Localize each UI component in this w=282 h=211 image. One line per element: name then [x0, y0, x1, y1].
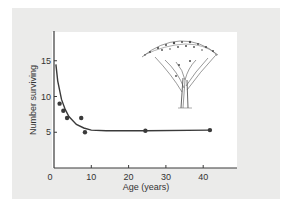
y-axis-label: Number surviving [28, 65, 38, 135]
data-point [143, 129, 147, 133]
x-tick-label: 0 [47, 172, 52, 182]
tree-illustration [142, 41, 218, 108]
x-tick-label: 10 [86, 172, 96, 182]
survivorship-chart: 010203040 51015 Age (years) Number survi… [0, 0, 282, 211]
data-point [83, 130, 87, 134]
x-tick-label: 30 [161, 172, 171, 182]
y-tick-label: 15 [41, 56, 51, 66]
data-point [57, 101, 61, 105]
data-point [208, 128, 212, 132]
x-tick-label: 20 [124, 172, 134, 182]
x-tick-label: 40 [198, 172, 208, 182]
data-point [79, 116, 83, 120]
data-point [61, 109, 65, 113]
x-axis-label: Age (years) [123, 182, 170, 192]
data-point [65, 116, 69, 120]
data-points [57, 101, 212, 134]
y-tick-label: 5 [46, 127, 51, 137]
y-tick-label: 10 [41, 92, 51, 102]
